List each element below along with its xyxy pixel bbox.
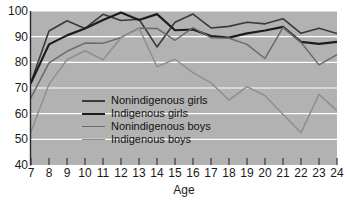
legend-item: Indigenous girls <box>82 107 227 120</box>
x-tick-label: 22 <box>294 166 307 180</box>
x-axis-title: Age <box>31 183 337 197</box>
legend-swatch <box>82 113 105 115</box>
series-line-0 <box>31 14 337 82</box>
legend-label: Nonindigenous girls <box>111 95 208 106</box>
chart-legend: Nonindigenous girlsIndigenous girlsNonin… <box>82 94 227 146</box>
legend-item: Nonindigenous girls <box>82 94 227 107</box>
x-tick-label: 8 <box>46 166 53 180</box>
x-tick-label: 11 <box>97 166 109 180</box>
x-axis: 789101112131415161718192021222324 <box>31 166 337 182</box>
x-tick-label: 14 <box>150 166 163 180</box>
legend-item: Nonindigenous boys <box>82 120 227 133</box>
x-tick-label: 19 <box>240 166 253 180</box>
legend-label: Nonindigenous boys <box>111 121 211 132</box>
x-tick-label: 17 <box>204 166 217 180</box>
x-tick-label: 20 <box>258 166 271 180</box>
legend-label: Indigenous girls <box>111 108 188 119</box>
x-tick-label: 18 <box>222 166 235 180</box>
x-tick-label: 12 <box>114 166 127 180</box>
x-tick-label: 23 <box>312 166 325 180</box>
y-axis: 405060708090100 <box>0 11 28 165</box>
series-line-1 <box>31 13 337 83</box>
y-tick-label: 70 <box>1 82 28 94</box>
x-tick-label: 15 <box>168 166 181 180</box>
y-tick-label: 100 <box>1 5 28 17</box>
x-tick-label: 7 <box>28 166 35 180</box>
x-tick-label: 13 <box>132 166 145 180</box>
legend-item: Indigenous boys <box>82 133 227 146</box>
legend-swatch <box>82 126 105 127</box>
legend-swatch <box>82 139 105 140</box>
y-tick-label: 80 <box>1 56 28 68</box>
legend-swatch <box>82 100 105 102</box>
y-tick-label: 40 <box>1 159 28 171</box>
legend-label: Indigenous boys <box>111 134 191 145</box>
x-tick-label: 9 <box>64 166 71 180</box>
x-tick-label: 21 <box>276 166 289 180</box>
x-tick-label: 16 <box>186 166 199 180</box>
y-tick-label: 50 <box>1 133 28 145</box>
y-tick-label: 90 <box>1 31 28 43</box>
x-tick-label: 24 <box>330 166 343 180</box>
y-tick-label: 60 <box>1 108 28 120</box>
x-tick-label: 10 <box>78 166 91 180</box>
line-chart: 405060708090100 789101112131415161718192… <box>0 0 347 201</box>
